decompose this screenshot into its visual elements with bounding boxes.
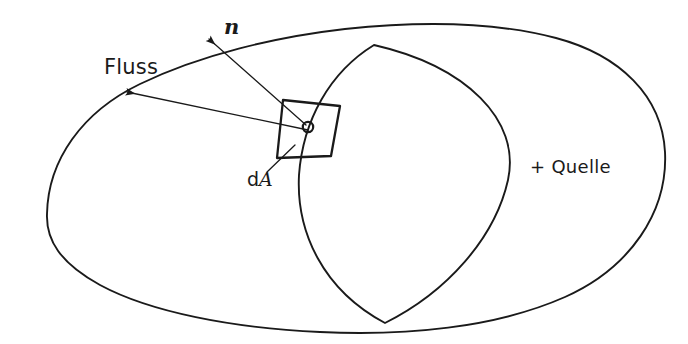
- normal-vector-label: n: [224, 16, 239, 37]
- area-element-label: dA: [247, 170, 273, 189]
- area-element-d: d: [247, 168, 259, 190]
- flux-label: Fluss: [104, 57, 158, 78]
- area-element-A: A: [259, 168, 273, 190]
- source-label: + Quelle: [530, 158, 611, 176]
- figure-canvas: Fluss n dA + Quelle: [0, 0, 688, 344]
- cross-section-ellipse: [299, 45, 510, 323]
